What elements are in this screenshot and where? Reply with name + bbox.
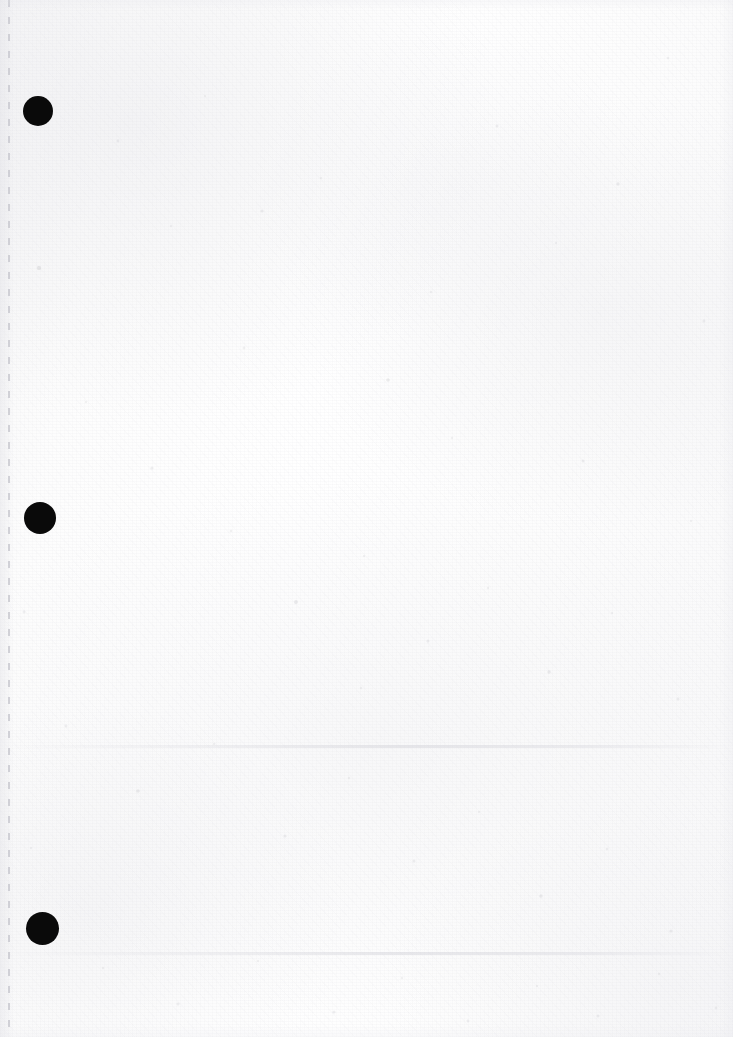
scan-speckle-layer [0,0,733,1037]
punch-hole-middle [24,502,56,534]
left-margin-perforation-line [8,0,10,1037]
paper-crease-upper [0,745,733,748]
punch-hole-bottom [26,912,59,945]
scanned-page [0,0,733,1037]
paper-crease-lower [0,952,733,955]
punch-hole-top [23,96,53,126]
